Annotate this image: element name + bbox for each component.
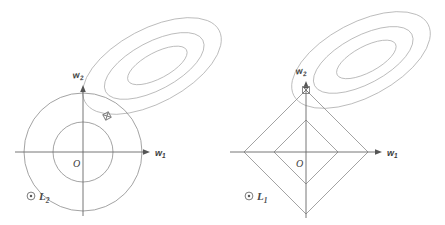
origin-label: O bbox=[296, 158, 303, 169]
loss-contour-middle bbox=[94, 19, 214, 113]
loss-contour-outer bbox=[277, 0, 445, 128]
figure-container: w1 w2 O L2 bbox=[0, 0, 445, 225]
legend-label: L1 bbox=[256, 190, 267, 205]
ring-dot-icon-center bbox=[248, 195, 251, 198]
l1-panel: w1 w2 O L1 bbox=[222, 0, 445, 225]
loss-contour-middle bbox=[303, 13, 423, 107]
legend-l1: L1 bbox=[245, 190, 267, 205]
y-axis-label: w2 bbox=[72, 69, 84, 82]
tangency-cross-b bbox=[103, 112, 111, 120]
loss-contour-inner bbox=[331, 32, 401, 86]
origin-label: O bbox=[73, 158, 80, 169]
loss-contour-outer bbox=[68, 0, 222, 134]
legend-label: L2 bbox=[38, 190, 50, 205]
x-axis-label: w1 bbox=[387, 148, 398, 160]
l2-panel: w1 w2 O L2 bbox=[0, 0, 222, 225]
tangency-marker-l2 bbox=[103, 112, 111, 120]
x-axis-arrowhead bbox=[375, 149, 382, 155]
ring-dot-icon-center bbox=[30, 195, 33, 198]
y-axis-label: w2 bbox=[295, 65, 307, 78]
loss-contour-inner bbox=[122, 38, 192, 92]
loss-contours-l2 bbox=[68, 0, 222, 134]
legend-l2: L2 bbox=[27, 190, 50, 205]
loss-contours-l1 bbox=[277, 0, 445, 128]
x-axis-arrowhead bbox=[143, 149, 150, 155]
y-axis-arrowhead bbox=[80, 85, 86, 92]
x-axis-label: w1 bbox=[155, 148, 166, 160]
